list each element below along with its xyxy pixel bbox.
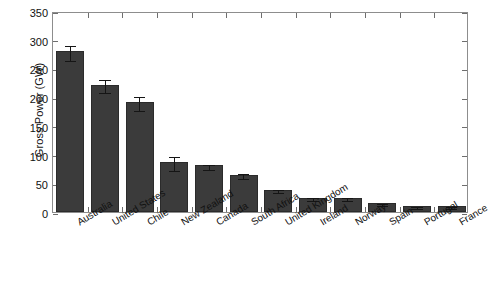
- y-axis-tick-label: 150: [30, 122, 48, 134]
- error-bar-cap-upper: [238, 174, 250, 175]
- y-axis-tick-mark-right: [462, 185, 467, 186]
- y-axis-tick-mark: [53, 41, 58, 42]
- x-axis-tick-mark-top: [261, 13, 262, 18]
- error-bar: [70, 46, 71, 61]
- x-axis-tick-mark-top: [192, 13, 193, 18]
- error-bar: [105, 80, 106, 94]
- plot-area: 050100150200250300350: [52, 12, 468, 213]
- error-bar-cap-lower: [99, 93, 111, 94]
- error-bar-cap-lower: [203, 170, 215, 171]
- x-axis-tick-mark-top: [122, 13, 123, 18]
- error-bar-cap-upper: [411, 207, 423, 208]
- error-bar-cap-upper: [65, 46, 77, 47]
- y-axis-tick-label: 350: [30, 7, 48, 19]
- error-bar-cap-upper: [273, 190, 285, 191]
- y-axis-tick-mark-right: [462, 127, 467, 128]
- x-axis-tick-mark-top: [400, 13, 401, 18]
- bar: [91, 85, 119, 212]
- error-bar-cap-lower: [411, 209, 423, 210]
- y-axis-tick-mark-right: [462, 156, 467, 157]
- y-axis-tick-mark-right: [462, 99, 467, 100]
- error-bar-cap-upper: [203, 165, 215, 166]
- y-axis-tick-label: 200: [30, 93, 48, 105]
- error-bar-cap-upper: [134, 97, 146, 98]
- error-bar-cap-lower: [169, 171, 181, 172]
- bar-chart-figure: Gross Power (GW) 050100150200250300350 A…: [0, 0, 489, 282]
- y-axis-tick-label: 0: [42, 208, 48, 220]
- x-axis-tick-mark-top: [365, 13, 366, 18]
- error-bar-cap-upper: [99, 80, 111, 81]
- bar: [56, 51, 84, 212]
- y-axis-tick-mark: [53, 214, 58, 215]
- y-axis-tick-mark: [53, 13, 58, 14]
- x-axis-tick-mark-top: [157, 13, 158, 18]
- x-axis-tick-mark-top: [434, 13, 435, 18]
- y-axis-tick-mark-right: [462, 70, 467, 71]
- y-axis-tick-label: 250: [30, 64, 48, 76]
- y-axis-tick-label: 50: [36, 179, 48, 191]
- x-axis-tick-mark-top: [226, 13, 227, 18]
- y-axis-tick-label: 300: [30, 36, 48, 48]
- error-bar-cap-lower: [134, 111, 146, 112]
- x-axis-tick-mark-top: [330, 13, 331, 18]
- y-axis-tick-mark-right: [462, 13, 467, 14]
- y-axis-tick-label: 100: [30, 151, 48, 163]
- error-bar: [139, 97, 140, 111]
- error-bar: [174, 157, 175, 171]
- x-axis-tick-mark-top: [88, 13, 89, 18]
- error-bar-cap-upper: [169, 157, 181, 158]
- x-axis-tick-mark-top: [296, 13, 297, 18]
- error-bar-cap-lower: [273, 193, 285, 194]
- error-bar-cap-lower: [65, 61, 77, 62]
- y-axis-tick-mark-right: [462, 41, 467, 42]
- error-bar-cap-upper: [342, 198, 354, 199]
- error-bar-cap-lower: [238, 179, 250, 180]
